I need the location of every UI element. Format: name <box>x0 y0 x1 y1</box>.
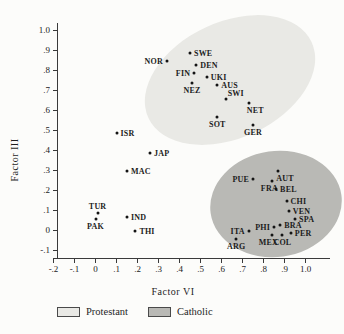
point-label-arg: ARG <box>227 242 245 251</box>
data-point-fin <box>193 71 196 74</box>
y-axis-line <box>57 23 58 259</box>
data-point-arg <box>235 237 238 240</box>
point-label-pue: PUE <box>232 174 249 183</box>
data-point-uki <box>205 75 208 78</box>
point-label-nez: NEZ <box>184 86 201 95</box>
point-label-col: COL <box>273 238 291 247</box>
point-label-ger: GER <box>244 128 262 137</box>
data-point-bel <box>275 187 278 190</box>
point-label-sot: SOT <box>209 120 226 129</box>
data-point-ger <box>252 123 255 126</box>
data-point-mac <box>126 169 129 172</box>
point-label-den: DEN <box>200 60 218 69</box>
point-label-net: NET <box>247 106 264 115</box>
y-tick-label: .7 <box>20 85 50 95</box>
data-point-col <box>281 233 284 236</box>
point-label-fin: FIN <box>176 68 190 77</box>
data-point-isr <box>115 131 118 134</box>
point-label-swe: SWE <box>194 48 212 57</box>
x-tick-label: 1.0 <box>291 264 321 274</box>
data-point-jap <box>149 151 152 154</box>
y-tick-label: .4 <box>20 145 50 155</box>
protestant-swatch <box>57 307 80 317</box>
y-tick-label: .2 <box>20 185 50 195</box>
point-label-tur: TUR <box>89 202 107 211</box>
data-point-aus <box>216 83 219 86</box>
data-point-den <box>195 63 198 66</box>
point-label-jap: JAP <box>154 148 169 157</box>
legend-label-catholic: Catholic <box>177 306 213 317</box>
catholic-swatch <box>148 307 171 317</box>
data-point-bra <box>279 223 282 226</box>
y-tick-label: .6 <box>20 105 50 115</box>
data-point-nor <box>165 59 168 62</box>
catholic-region <box>203 142 344 265</box>
data-point-thi <box>134 229 137 232</box>
data-point-pak <box>94 217 97 220</box>
data-point-mex <box>270 233 273 236</box>
data-point-fra <box>270 179 273 182</box>
y-tick-label: -.1 <box>20 245 50 255</box>
data-point-sot <box>216 115 219 118</box>
y-axis-title: Factor III <box>9 138 20 181</box>
data-point-phi <box>273 225 276 228</box>
y-tick-label: 0 <box>20 225 50 235</box>
y-tick-label: .5 <box>20 125 50 135</box>
data-point-aut <box>277 169 280 172</box>
x-axis-title: Factor VI <box>152 286 195 297</box>
y-tick-label: .1 <box>20 205 50 215</box>
y-tick-label: .8 <box>20 65 50 75</box>
point-label-pak: PAK <box>87 222 104 231</box>
y-tick-label: .9 <box>20 45 50 55</box>
point-label-nor: NOR <box>145 56 163 65</box>
x-axis-line <box>53 258 330 259</box>
data-point-swe <box>189 51 192 54</box>
data-point-pue <box>252 177 255 180</box>
legend-label-protestant: Protestant <box>86 306 128 317</box>
data-point-ven <box>287 209 290 212</box>
point-label-mac: MAC <box>131 166 151 175</box>
point-label-isr: ISR <box>121 128 135 137</box>
y-tick-label: 1.0 <box>20 25 50 35</box>
data-point-chi <box>285 199 288 202</box>
point-label-bel: BEL <box>280 184 297 193</box>
data-point-tur <box>96 211 99 214</box>
data-point-ind <box>126 215 129 218</box>
legend: ProtestantCatholic <box>57 306 213 317</box>
legend-item-catholic: Catholic <box>148 306 213 317</box>
point-label-swi: SWI <box>228 89 244 98</box>
point-label-thi: THI <box>139 226 154 235</box>
y-tick-label: .3 <box>20 165 50 175</box>
point-label-chi: CHI <box>291 196 307 205</box>
legend-item-protestant: Protestant <box>57 306 128 317</box>
point-label-per: PER <box>295 228 312 237</box>
point-label-phi: PHI <box>255 222 270 231</box>
data-point-net <box>247 101 250 104</box>
point-label-ita: ITA <box>231 226 245 235</box>
scatter-plot-figure: 1.0.9.8.7.6.5.4.3.2.10-.1-.2-.10.1.2.3.4… <box>0 0 344 334</box>
data-point-ita <box>247 229 250 232</box>
data-point-nez <box>191 81 194 84</box>
point-label-aut: AUT <box>276 174 294 183</box>
point-label-ind: IND <box>131 212 146 221</box>
data-point-per <box>289 231 292 234</box>
